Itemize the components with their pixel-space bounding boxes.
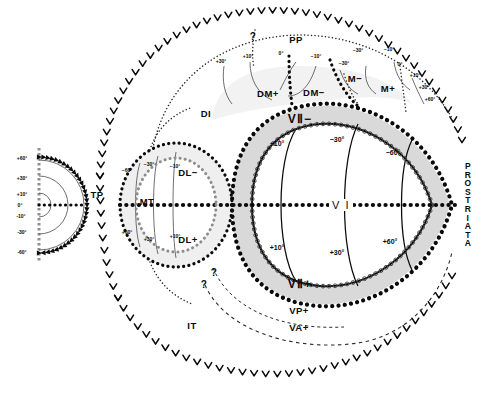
chevron-boundary-marker (107, 119, 114, 124)
chevron-boundary-marker (251, 371, 258, 376)
chevron-boundary-marker (99, 235, 106, 240)
chevron-boundary-marker (455, 127, 462, 132)
chevron-boundary-marker (320, 366, 327, 371)
v1-meridian-label: V I (329, 199, 353, 211)
chevron-boundary-marker (364, 351, 371, 356)
v1-ecc-upper-0: −10° (270, 140, 285, 147)
chevron-boundary-marker (411, 63, 418, 68)
chevron-boundary-marker (356, 26, 363, 31)
chevron-boundary-marker (258, 8, 265, 13)
chevron-boundary-marker (139, 61, 146, 66)
area-label-V2plus: VⅡ+ (288, 277, 313, 291)
chevron-boundary-marker (173, 32, 180, 37)
chevron-boundary-marker (120, 88, 127, 93)
mt-tick-upper-1: −30° (144, 161, 154, 167)
chevron-boundary-marker (193, 22, 200, 27)
dm-tick-3: −10° (311, 53, 321, 59)
chevron-boundary-marker (214, 15, 221, 20)
mt-tick-lower-1: +30° (144, 236, 154, 242)
v1-ecc-lower-1: +30° (330, 249, 345, 256)
chevron-boundary-marker (303, 10, 310, 15)
uncertain-boundary-marker-1: ? (211, 267, 218, 278)
chevron-boundary-marker (110, 108, 117, 113)
chevron-boundary-marker (127, 315, 134, 320)
chevron-boundary-marker (101, 248, 108, 253)
chevron-boundary-marker (152, 339, 159, 344)
m-tick-3: +10° (410, 72, 420, 78)
chevron-boundary-marker (450, 117, 457, 122)
dm-tick-4: −30° (339, 60, 349, 66)
chevron-boundary-marker (309, 368, 316, 373)
mt-tick-lower-0: +60° (122, 229, 132, 235)
chevron-boundary-marker (239, 369, 246, 374)
chevron-boundary-marker (236, 10, 243, 15)
dm-tick-1: +10° (243, 53, 253, 59)
area-label-IT: IT (187, 320, 196, 331)
chevron-boundary-marker (103, 260, 110, 265)
chevron-boundary-marker (97, 211, 104, 216)
chevron-boundary-marker (394, 48, 401, 53)
prostriata-letter: A (462, 239, 474, 248)
mt-tick-upper-0: −60° (122, 167, 132, 173)
v1-ecc-lower-0: +10° (270, 244, 285, 251)
chevron-boundary-marker (274, 371, 281, 376)
inset-ecc-label-2: +10° (17, 191, 27, 197)
chevron-boundary-marker (204, 18, 211, 23)
prostriata-label: PROSTRIATA (462, 162, 474, 248)
chevron-boundary-marker (183, 355, 190, 360)
chevron-boundary-marker (216, 365, 223, 370)
chevron-boundary-marker (183, 27, 190, 32)
inset-ecc-label-6: -60° (17, 249, 26, 255)
chevron-boundary-marker (439, 97, 446, 102)
inset-ecc-label-4: -10° (16, 213, 25, 219)
chevron-boundary-marker (297, 370, 304, 375)
dm-tick-0: +30° (216, 58, 226, 64)
v1-ecc-lower-2: +60° (383, 238, 398, 245)
uncertain-boundary-marker-2: ? (201, 279, 208, 290)
area-label-VPplus: VP+ (289, 305, 309, 316)
area-label-DLplus: DL+ (178, 234, 198, 245)
chevron-boundary-marker (110, 284, 117, 289)
chevron-boundary-marker (394, 333, 401, 338)
chevron-boundary-marker (374, 345, 381, 350)
chevron-boundary-marker (143, 332, 150, 337)
chevron-boundary-marker (120, 306, 127, 311)
m-tick-4: +30° (419, 84, 429, 90)
chevron-boundary-marker (346, 21, 353, 26)
chevron-boundary-marker (134, 324, 141, 329)
chevron-boundary-marker (225, 12, 232, 17)
chevron-boundary-marker (172, 350, 179, 355)
chevron-boundary-marker (436, 293, 443, 298)
chevron-boundary-marker (331, 363, 338, 368)
uncertain-boundary-marker-0: ? (250, 31, 257, 42)
area-label-Mminus: M− (348, 73, 362, 84)
area-label-VAplus: VA+ (289, 322, 309, 333)
figure-canvas: .thickdot{fill:none;stroke:#0a0a0a;strok… (0, 0, 484, 394)
chevron-boundary-marker (335, 18, 342, 23)
v1-ecc-upper-1: −30° (330, 136, 345, 143)
chevron-boundary-marker (147, 53, 154, 58)
chevron-boundary-marker (428, 302, 435, 307)
chevron-boundary-marker (98, 223, 105, 228)
area-label-MT: MT (140, 196, 155, 207)
chevron-boundary-marker (459, 137, 466, 142)
chevron-boundary-marker (99, 151, 106, 156)
inset-ecc-label-5: -30° (17, 229, 26, 235)
chevron-boundary-marker (97, 162, 104, 167)
chevron-boundary-marker (384, 339, 391, 344)
hemifield-polar-inset (37, 148, 90, 262)
chevron-boundary-marker (366, 30, 373, 35)
chevron-boundary-marker (403, 326, 410, 331)
chevron-boundary-marker (205, 363, 212, 368)
chevron-boundary-marker (155, 45, 162, 50)
area-label-PP: PP (289, 34, 303, 45)
chevron-boundary-marker (412, 318, 419, 323)
v1-ecc-upper-2: −60° (386, 149, 401, 156)
area-label-DMminus: DM− (303, 87, 325, 98)
chevron-boundary-marker (403, 55, 410, 60)
m-tick-0: −30° (353, 47, 363, 53)
inset-ecc-label-0: +60° (17, 155, 27, 161)
chevron-boundary-marker (101, 140, 108, 145)
chevron-boundary-marker (342, 359, 349, 364)
area-label-Mplus: M+ (381, 83, 395, 94)
